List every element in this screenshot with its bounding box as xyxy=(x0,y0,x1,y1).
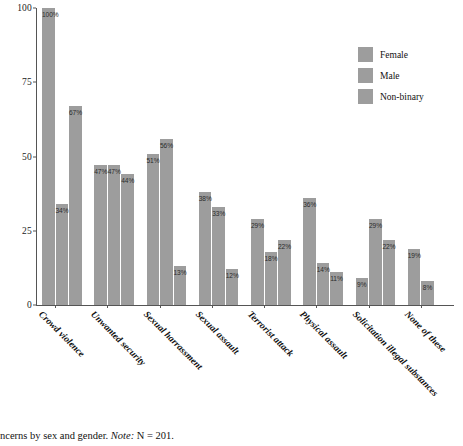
bar: 29% xyxy=(251,219,264,305)
bar-value-label: 9% xyxy=(356,281,369,288)
bar-value-label: 13% xyxy=(174,269,187,276)
bar-group: 36%14%11% xyxy=(303,8,355,305)
bar: 11% xyxy=(330,272,343,305)
legend-swatch-icon xyxy=(358,68,373,83)
x-tick-mark xyxy=(55,305,56,308)
bar: 100% xyxy=(42,8,55,305)
x-tick-mark xyxy=(421,305,422,308)
bar: 22% xyxy=(383,240,396,305)
legend-item-male: Male xyxy=(358,65,424,86)
caption-note-label: Note: xyxy=(111,430,134,441)
bar: 29% xyxy=(369,219,382,305)
bar-value-label: 33% xyxy=(212,210,225,217)
figure-caption: ncerns by sex and gender. Note: N = 201. xyxy=(0,430,463,441)
x-tick-mark xyxy=(212,305,213,308)
chart-figure: 0255075100 100%34%67%47%47%44%51%56%13%3… xyxy=(0,0,463,446)
x-tick-label: Sexual harrassment xyxy=(141,309,204,372)
x-tick-label: Unwanted security xyxy=(89,309,148,368)
bar-value-label: 47% xyxy=(108,168,121,175)
legend-label: Female xyxy=(380,50,408,60)
y-tick-label: 0 xyxy=(27,300,32,310)
bar-value-label: 67% xyxy=(69,109,82,116)
y-tick-label: 25 xyxy=(22,226,32,236)
bar: 33% xyxy=(212,207,225,305)
bar-value-label: 11% xyxy=(330,275,343,282)
bar: 9% xyxy=(356,278,369,305)
y-tick-label: 100 xyxy=(17,3,32,13)
x-tick-label: None of these xyxy=(403,309,448,354)
caption-note-value: N = 201. xyxy=(134,430,174,441)
bar: 67% xyxy=(69,106,82,305)
bar-value-label: 8% xyxy=(421,284,434,291)
y-tick-label: 75 xyxy=(22,77,32,87)
x-tick-label: Terrorist attack xyxy=(246,309,296,359)
bar-value-label: 29% xyxy=(369,222,382,229)
bar-value-label: 12% xyxy=(226,272,239,279)
bar-value-label: 19% xyxy=(408,252,421,259)
bar-value-label: 38% xyxy=(199,195,212,202)
bar: 22% xyxy=(278,240,291,305)
bar-group: 29%18%22% xyxy=(251,8,303,305)
x-tick-mark xyxy=(316,305,317,308)
bar-value-label: 22% xyxy=(383,243,396,250)
bar: 19% xyxy=(408,249,421,305)
bar-value-label: 47% xyxy=(94,168,107,175)
x-tick-mark xyxy=(264,305,265,308)
x-tick-mark xyxy=(369,305,370,308)
bar: 47% xyxy=(94,165,107,305)
bar-value-label: 18% xyxy=(265,255,278,262)
legend-item-non-binary: Non-binary xyxy=(358,86,424,107)
bar-value-label: 51% xyxy=(147,157,160,164)
legend-label: Male xyxy=(380,71,400,81)
legend: Female Male Non-binary xyxy=(358,44,424,107)
bar-value-label: 36% xyxy=(303,201,316,208)
x-tick-label: Physical assault xyxy=(298,309,350,361)
legend-label: Non-binary xyxy=(380,92,424,102)
bar: 36% xyxy=(303,198,316,305)
x-axis-line xyxy=(36,305,454,306)
bar-group: 100%34%67% xyxy=(42,8,94,305)
bar: 8% xyxy=(421,281,434,305)
bar: 51% xyxy=(147,154,160,305)
bar-group: 47%47%44% xyxy=(94,8,146,305)
bar-value-label: 34% xyxy=(56,207,69,214)
bar: 34% xyxy=(56,204,69,305)
bar: 12% xyxy=(226,269,239,305)
bar-value-label: 100% xyxy=(42,11,55,18)
bar-value-label: 56% xyxy=(160,142,173,149)
legend-swatch-icon xyxy=(358,89,373,104)
bar: 56% xyxy=(160,139,173,305)
y-tick-label: 50 xyxy=(22,152,32,162)
legend-item-female: Female xyxy=(358,44,424,65)
bar-value-label: 29% xyxy=(251,222,264,229)
bar: 44% xyxy=(121,174,134,305)
bar-value-label: 44% xyxy=(121,177,134,184)
bar: 18% xyxy=(265,252,278,305)
bar: 47% xyxy=(108,165,121,305)
x-tick-label: Crowd violence xyxy=(37,309,87,359)
bar: 38% xyxy=(199,192,212,305)
bar-value-label: 14% xyxy=(317,266,330,273)
x-tick-mark xyxy=(160,305,161,308)
bar: 13% xyxy=(174,266,187,305)
bar-value-label: 22% xyxy=(278,243,291,250)
bar-group: 51%56%13% xyxy=(147,8,199,305)
bar: 14% xyxy=(317,263,330,305)
x-tick-label: Solicitation illegal substances xyxy=(350,309,439,398)
bar-group: 38%33%12% xyxy=(199,8,251,305)
x-tick-mark xyxy=(107,305,108,308)
x-tick-label: Sexual assault xyxy=(194,309,241,356)
legend-swatch-icon xyxy=(358,47,373,62)
caption-text: ncerns by sex and gender. xyxy=(0,430,111,441)
